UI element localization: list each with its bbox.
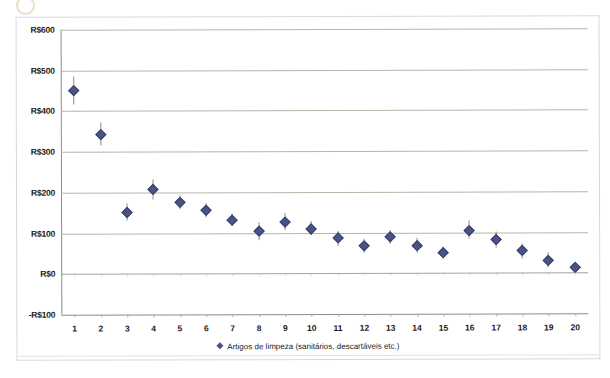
x-tick-label: 1 (72, 324, 77, 334)
x-tick-mark (549, 313, 550, 316)
x-tick-mark (206, 314, 207, 317)
x-tick-label: 2 (99, 324, 104, 334)
x-tick-label: 3 (125, 323, 130, 333)
x-tick-label: 10 (307, 323, 316, 333)
x-tick-mark (154, 314, 155, 317)
x-tick-label: 14 (412, 323, 421, 333)
data-point-marker (95, 129, 106, 140)
y-tick-label: R$100 (31, 228, 61, 238)
data-point-marker (279, 216, 290, 227)
x-tick-label: 7 (230, 323, 235, 333)
data-point-marker (68, 85, 79, 96)
x-tick-mark (364, 314, 365, 317)
zero-axis-tick-mark (522, 273, 523, 276)
x-tick-label: 5 (178, 323, 183, 333)
chart-legend: Artigos de limpeza (sanitários, descartá… (17, 341, 599, 352)
x-tick-mark (127, 314, 128, 317)
scan-bottom-edge (17, 354, 599, 357)
data-point-marker (174, 197, 185, 208)
zero-axis-tick-mark (338, 273, 339, 276)
gridlines-group (61, 28, 588, 29)
gridline-R100 (61, 232, 588, 234)
x-tick-label: 9 (283, 323, 288, 333)
gridline-R600 (61, 28, 588, 30)
x-tick-mark (312, 314, 313, 317)
x-tick-label: 16 (465, 323, 474, 333)
zero-axis-tick-mark (391, 273, 392, 276)
data-point-marker (464, 224, 475, 235)
data-point-marker (517, 245, 528, 256)
x-tick-mark (180, 314, 181, 317)
zero-axis-tick-mark (312, 273, 313, 276)
y-tick-label: R$200 (31, 187, 61, 197)
gridline-R300 (61, 150, 588, 152)
x-tick-mark (101, 315, 102, 318)
x-tick-mark (338, 314, 339, 317)
data-point-marker (359, 241, 370, 252)
zero-axis-tick-mark (180, 274, 181, 277)
diamond-marker-icon (216, 342, 223, 349)
x-tick-label: 15 (439, 323, 448, 333)
chart-frame: R$600R$500R$400R$300R$200R$100R$0-R$100 … (16, 15, 601, 361)
y-tick-label: R$600 (31, 25, 61, 35)
y-tick-label: R$400 (31, 106, 61, 116)
x-tick-mark (522, 313, 523, 316)
data-point-marker (148, 184, 159, 195)
x-tick-mark (391, 314, 392, 317)
x-tick-label: 18 (518, 322, 527, 332)
zero-axis-tick-mark (127, 274, 128, 277)
gridline-R500 (61, 69, 588, 71)
y-tick-label: R$0 (40, 269, 61, 279)
zero-axis-tick-mark (232, 273, 233, 276)
zero-axis-tick-mark (153, 274, 154, 277)
x-tick-label: 19 (544, 322, 553, 332)
x-tick-mark (443, 314, 444, 317)
data-point-marker (411, 240, 422, 251)
x-tick-label: 20 (570, 322, 579, 332)
x-tick-label: 4 (151, 323, 156, 333)
zero-axis-tick-mark (285, 273, 286, 276)
x-tick-label: 8 (257, 323, 262, 333)
zero-axis-tick-mark (549, 273, 550, 276)
data-point-marker (121, 207, 132, 218)
y-tick-label: -R$100 (29, 310, 62, 320)
x-tick-label: 12 (360, 323, 369, 333)
x-tick-label: 11 (334, 323, 343, 333)
gridline-R0 (61, 273, 588, 275)
plot-area: R$600R$500R$400R$300R$200R$100R$0-R$100 … (61, 28, 589, 314)
zero-axis-tick-mark (417, 273, 418, 276)
zero-axis-tick-mark (74, 274, 75, 277)
zero-axis-tick-mark (496, 273, 497, 276)
x-tick-label: 6 (204, 323, 209, 333)
x-tick-mark (259, 314, 260, 317)
zero-axis-tick-mark (101, 274, 102, 277)
data-point-marker (543, 254, 554, 265)
zero-axis-tick-mark (443, 273, 444, 276)
x-tick-mark (75, 315, 76, 318)
x-tick-label: 13 (386, 323, 395, 333)
x-tick-mark (233, 314, 234, 317)
y-tick-label: R$500 (31, 65, 61, 75)
zero-axis-tick-mark (575, 273, 576, 276)
zero-axis-tick-mark (206, 274, 207, 277)
zero-axis-tick-mark (364, 273, 365, 276)
legend-label: Artigos de limpeza (sanitários, descartá… (227, 342, 399, 351)
gridline-R200 (61, 191, 588, 193)
x-tick-mark (496, 314, 497, 317)
data-point-marker (438, 247, 449, 258)
x-tick-mark (470, 314, 471, 317)
gridline-R100 (61, 313, 588, 315)
data-point-marker (490, 234, 501, 245)
data-point-marker (253, 225, 264, 236)
data-point-marker (200, 205, 211, 216)
data-point-marker (227, 214, 238, 225)
zero-axis-tick-mark (259, 273, 260, 276)
y-tick-label: R$300 (31, 147, 61, 157)
x-tick-label: 17 (491, 322, 500, 332)
x-tick-mark (417, 314, 418, 317)
x-tick-mark (285, 314, 286, 317)
scan-artifact-icon (16, 0, 35, 15)
data-point-marker (332, 233, 343, 244)
zero-axis-tick-mark (470, 273, 471, 276)
x-tick-mark (575, 313, 576, 316)
